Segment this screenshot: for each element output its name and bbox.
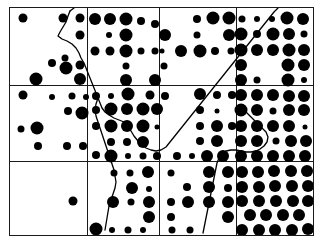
data-dot bbox=[211, 47, 219, 55]
data-dot bbox=[153, 152, 161, 160]
data-dot bbox=[193, 15, 201, 23]
data-dot bbox=[167, 198, 175, 206]
data-dot bbox=[211, 120, 223, 132]
data-dot bbox=[277, 209, 289, 221]
data-dot bbox=[301, 31, 308, 38]
data-dot bbox=[160, 49, 165, 54]
data-dot bbox=[105, 103, 118, 116]
data-dot bbox=[267, 44, 279, 56]
data-dot bbox=[76, 61, 85, 70]
data-dot bbox=[155, 125, 160, 130]
data-dot bbox=[286, 224, 298, 236]
data-dot bbox=[239, 16, 246, 23]
data-dot bbox=[282, 59, 295, 72]
data-dot bbox=[215, 109, 220, 114]
data-dot bbox=[244, 209, 256, 221]
data-dot bbox=[235, 74, 247, 86]
data-dot bbox=[83, 94, 89, 100]
data-dot bbox=[120, 74, 132, 86]
data-dot bbox=[105, 120, 118, 133]
data-dot bbox=[235, 89, 247, 101]
data-dot bbox=[213, 91, 221, 99]
data-dot bbox=[223, 29, 235, 41]
data-dot bbox=[19, 14, 28, 23]
data-dot bbox=[127, 170, 134, 177]
data-dot bbox=[222, 166, 234, 178]
data-dot bbox=[92, 106, 100, 114]
data-dot bbox=[203, 181, 215, 193]
data-dot bbox=[69, 93, 76, 100]
data-dot bbox=[142, 166, 154, 178]
data-dot bbox=[143, 211, 155, 223]
data-dot bbox=[30, 73, 43, 86]
data-dot bbox=[269, 224, 281, 236]
data-dot bbox=[137, 103, 150, 116]
data-dot bbox=[104, 13, 116, 25]
data-dot bbox=[273, 138, 280, 145]
data-dot bbox=[161, 63, 168, 70]
data-dot bbox=[297, 13, 309, 25]
data-dot bbox=[236, 181, 248, 193]
data-dot bbox=[140, 227, 146, 233]
data-dot bbox=[236, 166, 248, 178]
data-dot bbox=[302, 195, 314, 207]
data-dot bbox=[224, 184, 232, 192]
data-dot bbox=[269, 180, 281, 192]
data-dot bbox=[175, 45, 187, 57]
data-dot bbox=[283, 150, 295, 162]
data-dot bbox=[298, 104, 310, 116]
data-dot bbox=[253, 195, 265, 207]
dot-density-map-figure bbox=[0, 0, 321, 250]
data-dot bbox=[194, 45, 207, 58]
data-dot bbox=[301, 77, 307, 83]
data-dot bbox=[223, 12, 236, 25]
data-dot bbox=[92, 122, 100, 130]
data-dot bbox=[123, 138, 131, 146]
data-dot bbox=[159, 29, 171, 41]
data-dot bbox=[183, 183, 191, 191]
data-dot bbox=[251, 120, 263, 132]
data-dot bbox=[187, 227, 194, 234]
data-dot bbox=[106, 32, 112, 38]
data-dot bbox=[137, 17, 145, 25]
data-dot bbox=[173, 152, 181, 160]
data-dot bbox=[251, 89, 263, 101]
data-dot bbox=[302, 180, 314, 192]
data-dot bbox=[122, 88, 135, 101]
data-dot bbox=[123, 63, 130, 70]
data-dot bbox=[293, 209, 305, 221]
data-dot bbox=[49, 94, 55, 100]
data-dot bbox=[76, 14, 85, 23]
data-dot bbox=[251, 135, 263, 147]
data-dot bbox=[18, 126, 25, 133]
data-dot bbox=[89, 13, 101, 25]
data-dot bbox=[128, 199, 135, 206]
data-dot bbox=[137, 136, 149, 148]
data-dot bbox=[203, 166, 215, 178]
data-dot bbox=[194, 32, 201, 39]
data-dot bbox=[64, 107, 72, 115]
data-dot bbox=[111, 170, 118, 177]
data-dot bbox=[235, 120, 247, 132]
data-dot bbox=[196, 137, 204, 145]
data-dot bbox=[298, 44, 310, 56]
data-dot bbox=[125, 153, 131, 159]
data-dot bbox=[267, 28, 280, 41]
data-dot bbox=[203, 196, 215, 208]
data-dot bbox=[60, 62, 73, 75]
data-dot bbox=[189, 153, 195, 159]
data-dot bbox=[108, 93, 114, 99]
data-dot bbox=[138, 48, 145, 55]
data-dot bbox=[254, 77, 261, 84]
data-dot bbox=[48, 59, 56, 67]
data-dot bbox=[235, 59, 247, 71]
data-dot bbox=[235, 44, 248, 57]
data-dot bbox=[126, 182, 138, 194]
data-dot bbox=[19, 91, 28, 100]
data-dot bbox=[76, 107, 89, 120]
data-dot bbox=[251, 150, 263, 162]
data-dot bbox=[235, 135, 247, 147]
data-dot bbox=[268, 165, 280, 177]
data-dot bbox=[283, 120, 295, 132]
data-dot bbox=[251, 44, 263, 56]
